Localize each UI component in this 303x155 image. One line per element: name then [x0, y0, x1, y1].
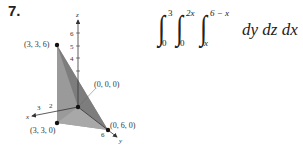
label-3-3-6: (3, 3, 6)	[24, 40, 50, 49]
integral-inner-lower: x	[204, 38, 208, 48]
integrand: dy dz dx	[242, 20, 298, 40]
point-origin	[76, 105, 80, 109]
integral-middle: ∫ 2x 0	[176, 10, 200, 50]
point-3-3-0	[55, 121, 59, 125]
y-tick-6: 6	[101, 131, 105, 139]
label-3-3-0: (3, 3, 0)	[30, 126, 56, 135]
x-tick-3: 3	[37, 104, 41, 112]
label-origin: (0, 0, 0)	[94, 80, 120, 89]
x-tick-2: 2	[49, 102, 53, 110]
integral-middle-lower: 0	[180, 38, 185, 48]
triple-integral-equation: ∫ 3 0 ∫ 2x 0 ∫ 6 − x x dy dz dx = 18	[158, 10, 303, 50]
z-tick-4: 4	[70, 55, 74, 63]
x-axis-label: x	[25, 113, 30, 121]
integral-middle-upper: 2x	[186, 8, 195, 18]
integral-outer-lower: 0	[162, 38, 167, 48]
label-0-6-0: (0, 6, 0)	[110, 121, 136, 130]
y-axis-label: y	[118, 137, 123, 145]
z-tick-5: 5	[70, 43, 74, 51]
z-tick-6: 6	[70, 30, 74, 38]
solid-region-figure: z 6 5 4 x 3 2 y 6 (3, 3, 6) (0, 0, 0) (3…	[0, 0, 160, 155]
z-axis-label: z	[75, 11, 79, 19]
integral-inner-upper: 6 − x	[210, 8, 229, 18]
integral-outer: ∫ 3 0	[158, 10, 176, 50]
integral-inner: ∫ 6 − x x	[200, 10, 232, 50]
point-3-3-6	[55, 43, 59, 47]
integral-outer-upper: 3	[168, 8, 173, 18]
